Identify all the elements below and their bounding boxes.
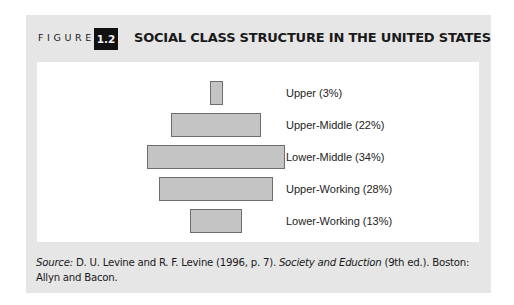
- chart-area: Upper (3%)Upper-Middle (22%)Lower-Middle…: [37, 62, 479, 242]
- figure-title: SOCIAL CLASS STRUCTURE IN THE UNITED STA…: [134, 30, 491, 45]
- bar-upper-working: [159, 177, 273, 201]
- bar-label: Lower-Middle (34%): [286, 150, 384, 164]
- bar-label: Upper (3%): [286, 86, 342, 100]
- bar-upper-middle: [171, 113, 260, 137]
- bar-upper: [210, 81, 223, 105]
- figure-number-badge: 1.2: [94, 28, 118, 50]
- source-book-title: Society and Eduction: [279, 257, 382, 268]
- figure-panel: FIGURE 1.2 SOCIAL CLASS STRUCTURE IN THE…: [26, 15, 491, 293]
- figure-label: FIGURE: [38, 32, 95, 43]
- bar-lower-working: [190, 209, 243, 233]
- bar-label: Lower-Working (13%): [286, 214, 392, 228]
- bar-label: Upper-Middle (22%): [286, 118, 384, 132]
- bar-label: Upper-Working (28%): [286, 182, 392, 196]
- figure-header: FIGURE 1.2 SOCIAL CLASS STRUCTURE IN THE…: [26, 28, 491, 50]
- source-prefix: Source:: [36, 257, 73, 268]
- bar-lower-middle: [147, 145, 285, 169]
- source-citation: Source: D. U. Levine and R. F. Levine (1…: [36, 255, 481, 285]
- source-authors: D. U. Levine and R. F. Levine (1996, p. …: [73, 257, 279, 268]
